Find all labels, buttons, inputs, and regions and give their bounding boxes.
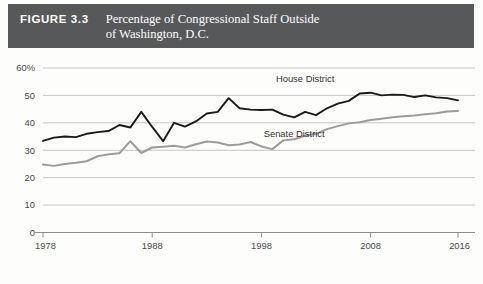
line-chart-svg: 60%50403020100 19781988199820082016 Hous… <box>0 52 483 284</box>
y-tick-label-50: 50 <box>25 90 35 101</box>
x-tick-label-1978: 1978 <box>35 240 56 251</box>
y-tick-label-30: 30 <box>25 145 35 156</box>
y-tick-label-0: 0 <box>30 227 35 238</box>
x-tick-label-1998: 1998 <box>251 240 272 251</box>
figure-title: Percentage of Congressional Staff Outsid… <box>106 12 464 41</box>
y-tick-label-10: 10 <box>25 199 35 210</box>
x-tick-label-2016: 2016 <box>449 240 470 251</box>
series-label-house-district: House District <box>276 73 335 84</box>
figure-container: FIGURE 3.3 Percentage of Congressional S… <box>0 0 483 284</box>
x-tick-label-2008: 2008 <box>360 240 381 251</box>
figure-title-line-1: Percentage of Congressional Staff Outsid… <box>106 12 464 27</box>
chart-plot-area: 60%50403020100 19781988199820082016 Hous… <box>0 52 483 284</box>
x-axis-tick-labels: 19781988199820082016 <box>35 240 470 251</box>
data-series-group <box>43 93 458 166</box>
series-inline-labels: House DistrictSenate District <box>264 73 335 139</box>
y-tick-label-20: 20 <box>25 172 35 183</box>
y-axis-tick-labels: 60%50403020100 <box>16 62 35 238</box>
x-axis <box>35 233 475 238</box>
y-tick-label-60: 60% <box>16 62 35 73</box>
series-label-senate-district: Senate District <box>264 128 325 139</box>
gridlines-group <box>43 68 475 205</box>
figure-title-line-2: of Washington, D.C. <box>106 27 464 42</box>
figure-number-label: FIGURE 3.3 <box>20 12 89 25</box>
y-tick-label-40: 40 <box>25 117 35 128</box>
x-tick-label-1988: 1988 <box>142 240 163 251</box>
figure-title-banner: FIGURE 3.3 Percentage of Congressional S… <box>8 4 474 48</box>
series-line-senate-district <box>43 111 458 166</box>
